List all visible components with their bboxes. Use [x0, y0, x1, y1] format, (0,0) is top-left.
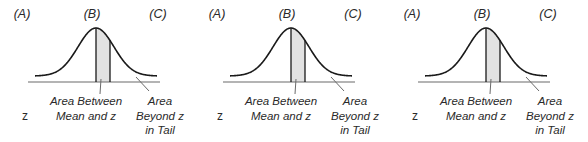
tail-caption-line: in Tail: [340, 124, 370, 136]
column-label: (A): [209, 7, 226, 21]
tail-pointer: [526, 77, 539, 91]
between-caption-line: Area Between: [439, 95, 512, 107]
z-row-label: z: [22, 109, 28, 123]
column-label: (A): [14, 7, 31, 21]
tail-caption-line: in Tail: [145, 124, 175, 136]
between-caption-line: Area Between: [244, 95, 317, 107]
between-caption-line: Area Between: [49, 95, 122, 107]
column-label: (B): [279, 7, 296, 21]
tail-caption-line: Beyond z: [136, 110, 184, 122]
between-caption-line: Mean and z: [251, 110, 311, 122]
panel: (A)(B)(C)Area BetweenMean and zAreaBeyon…: [14, 7, 185, 136]
panel: (A)(B)(C)Area BetweenMean and zAreaBeyon…: [404, 7, 575, 136]
normal-distribution-figure: (A)(B)(C)Area BetweenMean and zAreaBeyon…: [0, 0, 588, 142]
tail-caption-line: Beyond z: [331, 110, 379, 122]
column-label: (C): [539, 7, 556, 21]
tail-pointer: [136, 77, 149, 91]
tail-caption-line: Area: [147, 95, 172, 107]
z-row-label: z: [217, 109, 223, 123]
tail-pointer: [331, 77, 344, 91]
panel: (A)(B)(C)Area BetweenMean and zAreaBeyon…: [209, 7, 380, 136]
tail-caption-line: Beyond z: [526, 110, 574, 122]
column-label: (B): [474, 7, 491, 21]
column-label: (A): [404, 7, 421, 21]
column-label: (C): [344, 7, 361, 21]
column-label: (C): [149, 7, 166, 21]
tail-caption-line: Area: [342, 95, 367, 107]
z-row-label: z: [412, 109, 418, 123]
tail-caption-line: Area: [537, 95, 562, 107]
column-label: (B): [84, 7, 101, 21]
tail-caption-line: in Tail: [535, 124, 565, 136]
between-caption-line: Mean and z: [446, 110, 506, 122]
between-caption-line: Mean and z: [56, 110, 116, 122]
